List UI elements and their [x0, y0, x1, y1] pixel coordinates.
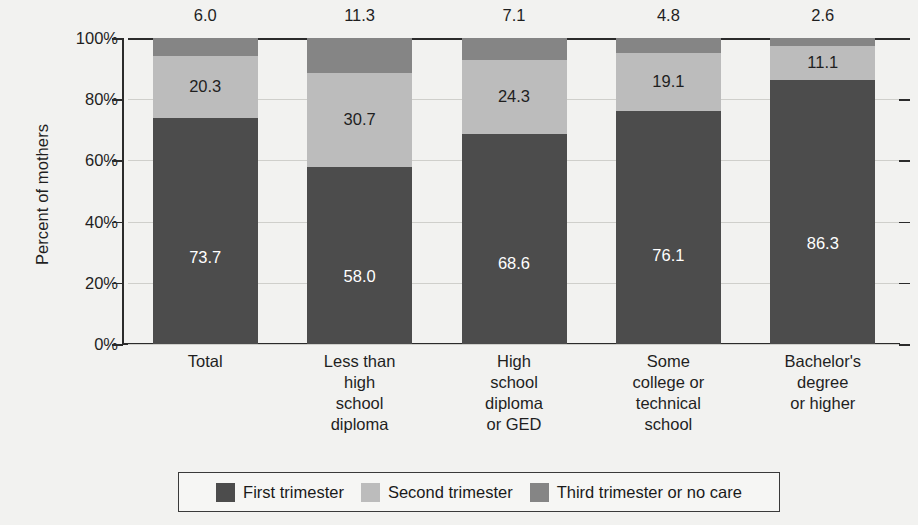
bar-top-annotation: 6.0	[153, 6, 258, 25]
y-axis-tick-label: 40%	[46, 212, 118, 231]
x-axis-category-label: Highschooldiplomaor GED	[434, 351, 594, 435]
bar-segment[interactable]	[462, 38, 567, 60]
bar-segment-label: 68.6	[462, 254, 567, 273]
bar-segment[interactable]: 73.7	[153, 118, 258, 344]
bar-segment[interactable]	[616, 38, 721, 53]
bar-segment[interactable]	[153, 38, 258, 56]
legend-swatch-icon	[361, 483, 380, 502]
bar-group[interactable]: 58.030.711.3	[307, 38, 412, 344]
y-axis-tick-mark	[112, 283, 123, 285]
bar-segment-label: 58.0	[307, 267, 412, 286]
bar-top-annotation: 2.6	[770, 6, 875, 25]
bar-segment[interactable]: 11.1	[770, 46, 875, 80]
bar-segment-label: 73.7	[153, 248, 258, 267]
x-axis-category-label: Less thanhighschooldiploma	[280, 351, 440, 435]
bar-segment-label: 24.3	[462, 87, 567, 106]
y-axis-tick-mark-right	[899, 283, 910, 285]
bar-top-annotation: 7.1	[462, 6, 567, 25]
y-axis-tick-mark	[112, 160, 123, 162]
bar-segment[interactable]: 20.3	[153, 56, 258, 118]
bar-segment-label: 19.1	[616, 72, 721, 91]
legend-swatch-icon	[216, 483, 235, 502]
y-axis-tick-mark	[112, 344, 123, 346]
bar-group[interactable]: 73.720.36.0	[153, 38, 258, 344]
bar-segment-label: 11.1	[770, 53, 875, 72]
y-axis-tick-mark	[112, 38, 123, 40]
y-axis-tick-mark-right	[899, 222, 910, 224]
legend-item[interactable]: Second trimester	[361, 483, 513, 502]
gridline	[128, 344, 900, 345]
bar-segment[interactable]: 86.3	[770, 80, 875, 344]
bar-group[interactable]: 68.624.37.1	[462, 38, 567, 344]
bar-top-annotation: 11.3	[307, 6, 412, 25]
legend-item[interactable]: Third trimester or no care	[530, 483, 742, 502]
legend-label: Second trimester	[388, 483, 513, 502]
bar-group[interactable]: 76.119.14.8	[616, 38, 721, 344]
y-axis-tick-mark-right	[899, 99, 910, 101]
bar-group[interactable]: 86.311.12.6	[770, 38, 875, 344]
plot-area: 73.720.36.058.030.711.368.624.37.176.119…	[128, 38, 900, 344]
y-axis-tick-label: 100%	[46, 29, 118, 48]
bar-segment-label: 20.3	[153, 77, 258, 96]
y-axis-line	[122, 38, 124, 344]
x-axis-category-label: Bachelor'sdegreeor higher	[743, 351, 903, 414]
stacked-bar-chart: Percent of mothers 0%20%40%60%80%100% 73…	[0, 0, 918, 525]
y-axis-tick-label: 60%	[46, 151, 118, 170]
bar-segment[interactable]: 68.6	[462, 134, 567, 344]
bar-segment-label: 76.1	[616, 246, 721, 265]
bar-segment[interactable]: 76.1	[616, 111, 721, 344]
y-axis-tick-mark	[112, 222, 123, 224]
x-axis-category-label: Somecollege ortechnicalschool	[588, 351, 748, 435]
bar-segment[interactable]	[770, 38, 875, 46]
bar-segment[interactable]: 58.0	[307, 167, 412, 344]
bar-segment[interactable]: 24.3	[462, 60, 567, 134]
y-axis-tick-mark	[112, 99, 123, 101]
bar-segment[interactable]: 30.7	[307, 73, 412, 167]
bar-top-annotation: 4.8	[616, 6, 721, 25]
bar-segment-label: 86.3	[770, 234, 875, 253]
legend-swatch-icon	[530, 483, 549, 502]
y-axis-tick-label: 20%	[46, 273, 118, 292]
y-axis-tick-mark-right	[899, 344, 910, 346]
legend-label: Third trimester or no care	[557, 483, 742, 502]
bar-segment-label: 30.7	[307, 110, 412, 129]
y-axis-tick-label: 0%	[46, 335, 118, 354]
legend-label: First trimester	[243, 483, 344, 502]
chart-legend: First trimesterSecond trimesterThird tri…	[178, 472, 780, 512]
x-axis-category-label: Total	[125, 351, 285, 372]
y-axis-tick-mark-right	[899, 38, 910, 40]
bar-segment[interactable]: 19.1	[616, 53, 721, 111]
legend-item[interactable]: First trimester	[216, 483, 344, 502]
y-axis-tick-label: 80%	[46, 90, 118, 109]
y-axis-tick-mark-right	[899, 160, 910, 162]
y-axis-tick-labels: 0%20%40%60%80%100%	[40, 0, 118, 525]
bar-segment[interactable]	[307, 38, 412, 73]
